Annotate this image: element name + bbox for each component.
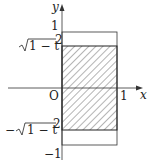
origin-label: O [49, 89, 59, 103]
diagram-canvas: y x O 1 1 −1 1 − t 2 − 1 − t 2 [0, 0, 155, 164]
y-tick-minus-one: −1 [44, 147, 62, 161]
svg-text:2: 2 [53, 117, 61, 131]
y-axis-arrow-icon [60, 4, 65, 11]
y-axis-label: y [51, 0, 59, 14]
x-tick-one: 1 [120, 89, 128, 103]
lower-bound-label: − 1 − t 2 [5, 117, 61, 137]
svg-text:2: 2 [55, 33, 63, 47]
x-axis-label: x [140, 88, 147, 102]
svg-text:−: − [5, 123, 15, 137]
upper-bound-label: 1 − t 2 [19, 33, 63, 53]
y-tick-one: 1 [51, 19, 59, 33]
